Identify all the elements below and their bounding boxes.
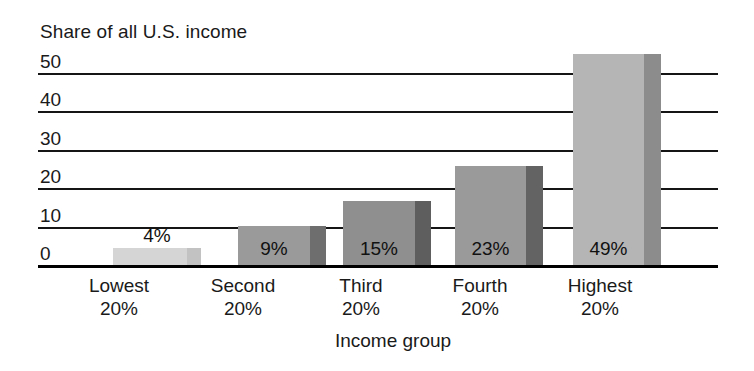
- bar-value-fourth: 23%: [455, 239, 526, 258]
- bar-side-lowest: [187, 248, 201, 265]
- x-tick-label-highest-line2: 20%: [550, 297, 650, 320]
- x-tick-label-lowest-line2: 20%: [73, 297, 165, 320]
- x-tick-label-second-line1: Second: [211, 275, 275, 296]
- bar-side-second: [310, 226, 326, 265]
- bar-group-highest[interactable]: 49%: [573, 50, 661, 265]
- bar-chart: Share of all U.S. income 50 40 30 20 10 …: [0, 0, 754, 371]
- x-tick-label-fourth-line2: 20%: [432, 297, 528, 320]
- x-tick-label-lowest: Lowest 20%: [73, 274, 165, 320]
- plot-area: 50 40 30 20 10 0 4%: [38, 50, 718, 265]
- x-axis-title: Income group: [335, 330, 451, 351]
- x-tick-label-third-line2: 20%: [315, 297, 407, 320]
- x-tick-label-highest-line1: Highest: [568, 275, 632, 296]
- y-axis-title: Share of all U.S. income: [40, 21, 247, 43]
- bar-group-second[interactable]: 9%: [238, 50, 326, 265]
- bar-side-highest: [644, 54, 661, 265]
- bar-face-highest: [573, 54, 644, 265]
- bar-highest[interactable]: [573, 54, 661, 265]
- x-tick-label-highest: Highest 20%: [550, 274, 650, 320]
- bar-group-third[interactable]: 15%: [343, 50, 431, 265]
- bar-lowest[interactable]: [113, 248, 201, 265]
- bar-value-third: 15%: [343, 239, 415, 258]
- x-tick-label-lowest-line1: Lowest: [89, 275, 149, 296]
- x-tick-label-fourth: Fourth 20%: [432, 274, 528, 320]
- bar-side-fourth: [526, 166, 543, 265]
- bars-layer: 4% 9% 15% 2: [38, 50, 718, 265]
- bar-face-lowest: [113, 248, 187, 265]
- x-axis-title-wrap: Income group: [0, 330, 754, 352]
- x-axis-line: [38, 265, 718, 268]
- bar-value-second: 9%: [238, 239, 310, 258]
- x-tick-label-second: Second 20%: [193, 274, 293, 320]
- bar-value-lowest: 4%: [113, 226, 201, 245]
- x-tick-label-third-line1: Third: [339, 275, 382, 296]
- x-tick-label-fourth-line1: Fourth: [453, 275, 508, 296]
- x-tick-label-second-line2: 20%: [193, 297, 293, 320]
- bar-group-fourth[interactable]: 23%: [455, 50, 543, 265]
- bar-group-lowest[interactable]: 4%: [113, 50, 201, 265]
- bar-side-third: [415, 201, 431, 266]
- bar-value-highest: 49%: [573, 239, 644, 258]
- x-tick-label-third: Third 20%: [315, 274, 407, 320]
